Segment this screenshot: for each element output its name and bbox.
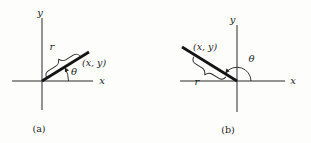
panel-b-radius-ray — [182, 47, 237, 81]
figure-canvas: y x r θ (x, y) (a) y x r θ (x, y) — [0, 0, 311, 143]
panel-b-y-axis-label: y — [229, 14, 236, 25]
panel-a-x-axis-label: x — [99, 75, 105, 86]
panel-a-angle-arc — [65, 68, 68, 81]
panel-a-point-label: (x, y) — [82, 57, 106, 68]
polar-coordinates-figure: y x r θ (x, y) (a) y x r θ (x, y) — [0, 0, 311, 143]
panel-a-y-axis-label: y — [36, 7, 43, 18]
panel-b-x-axis-label: x — [290, 75, 296, 86]
panel-b-angle-arc — [226, 67, 251, 81]
panel-a-radius-label: r — [50, 41, 56, 52]
panel-a: y x r θ (x, y) (a) — [12, 7, 106, 134]
panel-b-point-label: (x, y) — [193, 41, 217, 52]
panel-a-angle-label: θ — [71, 66, 77, 77]
panel-b: y x r θ (x, y) (b) — [180, 14, 296, 135]
panel-b-caption: (b) — [221, 124, 235, 135]
panel-a-caption: (a) — [32, 123, 45, 134]
panel-b-angle-label: θ — [248, 53, 254, 64]
